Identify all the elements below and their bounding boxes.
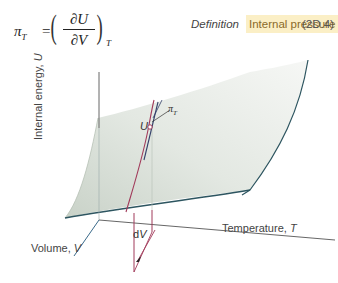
dv-label: dV: [133, 228, 146, 240]
slope-pi-label: πT: [168, 103, 177, 117]
y-axis-variable: U: [32, 53, 44, 61]
point-u-label: U: [140, 120, 148, 132]
x-axis-variable: T: [290, 222, 297, 234]
point-u-marker: [148, 125, 152, 129]
z-axis-label-text: Volume,: [31, 242, 74, 254]
z-axis-label: Volume, V: [31, 242, 81, 254]
slope-subscript: T: [173, 109, 177, 117]
x-axis-label-text: Temperature,: [222, 222, 290, 234]
dv-variable: V: [139, 228, 146, 240]
energy-surface: [65, 60, 308, 218]
z-axis-variable: V: [74, 242, 81, 254]
y-axis-label-text: Internal energy,: [32, 61, 44, 140]
y-axis-label: Internal energy, U: [32, 53, 44, 140]
x-axis-label: Temperature, T: [222, 222, 297, 234]
